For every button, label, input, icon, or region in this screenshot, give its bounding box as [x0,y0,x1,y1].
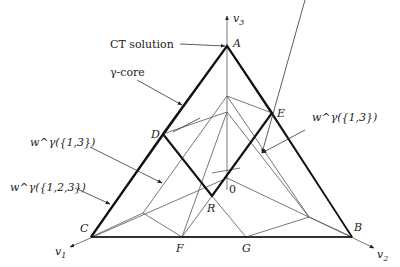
v1-label: v1 [55,245,66,260]
gamma-core-label: γ-core [110,66,145,79]
simplex-diagram: v3 v1 v2 A B C D E F G R 0 CT solution γ… [0,0,400,267]
v2-label: v2 [377,248,388,263]
vertex-C: C [80,222,89,235]
vertex-F: F [175,242,184,255]
w13-right-label: w^γ({1,3}) [312,111,377,124]
vertex-R: R [206,202,215,215]
vertex-B: B [353,221,362,234]
w123-label: w^γ({1,2,3}) [10,181,86,194]
vertex-G: G [242,242,251,255]
vertex-E: E [276,107,285,120]
v3-label: v3 [233,12,244,27]
w13-left-label: w^γ({1,3}) [30,136,95,149]
ct-solution-label: CT solution [110,38,174,51]
annotation-arrows [75,0,305,204]
origin-cross [212,168,240,173]
vertex-A: A [232,37,241,50]
origin-label: 0 [229,183,236,196]
vertex-D: D [150,128,160,141]
